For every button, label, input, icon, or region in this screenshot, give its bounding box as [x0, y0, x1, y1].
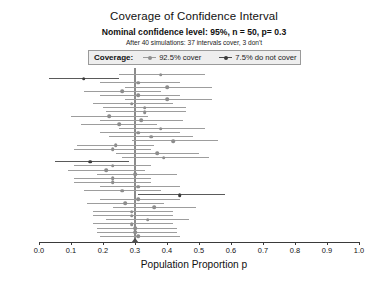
x-axis-tick-label: 0.4 [162, 246, 172, 255]
x-axis-tick-label: 0.7 [258, 246, 268, 255]
point-estimate-marker [120, 89, 124, 93]
legend-label-no-cover: 7.5% do not cover [235, 53, 296, 62]
point-estimate-marker [108, 114, 112, 118]
x-axis-tick-label: 0.3 [130, 246, 140, 255]
confidence-interval-coverage-figure: Coverage of Confidence Interval Nominal … [0, 0, 388, 284]
reference-value-marker-icon [131, 238, 139, 243]
point-estimate-marker [178, 193, 182, 197]
point-estimate-marker [149, 135, 153, 139]
x-axis-tick [167, 242, 168, 245]
point-estimate-marker [130, 210, 134, 214]
point-estimate-marker [143, 110, 147, 114]
chart-legend: Coverage: 92.5% cover 7.5% do not cover [88, 50, 301, 65]
x-axis-tick-label: 0.2 [98, 246, 108, 255]
x-axis-tick [231, 242, 232, 245]
point-estimate-marker [111, 181, 115, 185]
x-axis-tick [327, 242, 328, 245]
cover-marker-icon [143, 54, 156, 61]
x-axis-tick-label: 0.0 [34, 246, 44, 255]
point-estimate-marker [136, 131, 140, 135]
point-estimate-marker [143, 106, 147, 110]
point-estimate-marker [133, 172, 137, 176]
legend-title: Coverage: [94, 53, 133, 62]
point-estimate-marker [159, 73, 163, 77]
point-estimate-marker [130, 102, 134, 106]
point-estimate-marker [136, 94, 140, 98]
point-estimate-marker [88, 160, 92, 164]
point-estimate-marker [156, 152, 160, 156]
legend-label-cover: 92.5% cover [159, 53, 201, 62]
x-axis-tick [295, 242, 296, 245]
x-axis-tick-label: 1.0 [354, 246, 364, 255]
x-axis-tick-label: 0.5 [194, 246, 204, 255]
point-estimate-marker [146, 218, 150, 222]
point-estimate-marker [165, 85, 169, 89]
point-estimate-marker [130, 214, 134, 218]
point-estimate-marker [120, 189, 124, 193]
legend-entry-no-cover[interactable]: 7.5% do not cover [219, 53, 296, 62]
chart-subtitle: Nominal confidence level: 95%, n = 50, p… [0, 27, 388, 37]
point-estimate-marker [162, 156, 166, 160]
x-axis-tick [359, 242, 360, 245]
point-estimate-marker [130, 222, 134, 226]
point-estimate-marker [111, 164, 115, 168]
point-estimate-marker [114, 143, 118, 147]
point-estimate-marker [136, 185, 140, 189]
x-axis-tick [263, 242, 264, 245]
point-estimate-marker [133, 226, 137, 230]
point-estimate-marker [136, 81, 140, 85]
x-axis-tick-label: 0.1 [66, 246, 76, 255]
x-axis-label: Population Proportion p [0, 259, 388, 270]
point-estimate-marker [117, 123, 121, 127]
point-estimate-marker [104, 168, 108, 172]
point-estimate-marker [133, 230, 137, 234]
x-axis-tick-label: 0.9 [322, 246, 332, 255]
legend-entry-cover[interactable]: 92.5% cover [143, 53, 201, 62]
x-axis-tick [103, 242, 104, 245]
point-estimate-marker [111, 177, 115, 181]
point-estimate-marker [140, 118, 144, 122]
x-axis-tick [39, 242, 40, 245]
plot-area [0, 68, 388, 242]
x-axis-tick-label: 0.6 [226, 246, 236, 255]
point-estimate-marker [111, 147, 115, 151]
x-axis-tick [71, 242, 72, 245]
point-estimate-marker [82, 77, 86, 81]
chart-title: Coverage of Confidence Interval [0, 10, 388, 22]
point-estimate-marker [152, 206, 156, 210]
point-estimate-marker [165, 98, 169, 102]
x-axis-tick [199, 242, 200, 245]
point-estimate-marker [136, 197, 140, 201]
point-estimate-marker [172, 139, 176, 143]
x-axis: Population Proportion p 0.00.10.20.30.40… [0, 242, 388, 284]
no-cover-marker-icon [219, 54, 232, 61]
point-estimate-marker [124, 201, 128, 205]
chart-annotation: After 40 simulations: 37 intervals cover… [0, 39, 388, 46]
point-estimate-marker [159, 127, 163, 131]
x-axis-tick-label: 0.8 [290, 246, 300, 255]
